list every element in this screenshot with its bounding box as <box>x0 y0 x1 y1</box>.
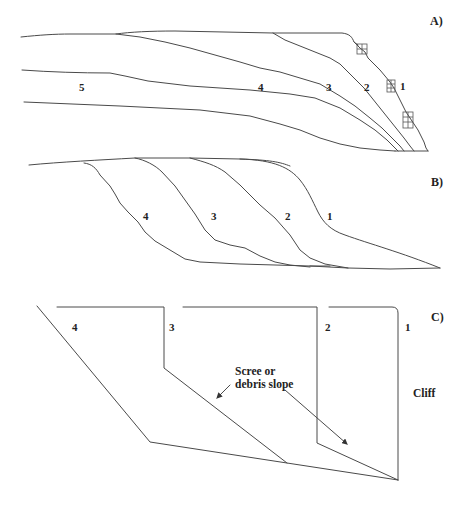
panel-a-label: A) <box>430 15 443 27</box>
panel-b-label: B) <box>431 176 443 188</box>
panel-a-cliff-block-middle <box>387 80 395 92</box>
panel-a-top-surface <box>21 31 358 45</box>
panel-a-profile-1 <box>354 42 428 151</box>
panel-b-profile-label-3: 3 <box>211 211 217 222</box>
panel-c-cliff-annotation: Cliff <box>413 387 435 400</box>
panel-c-scree-annotation: Scree or debris slope <box>235 365 293 391</box>
panel-a-profile-5 <box>24 102 395 151</box>
panel-c-label: C) <box>431 311 444 323</box>
panel-c-profile-4 <box>37 306 398 480</box>
panel-b-profiles <box>29 158 440 269</box>
panel-c-profile-label-1: 1 <box>405 322 411 333</box>
panel-c-profile-label-4: 4 <box>72 322 78 333</box>
panel-a-profile-label-3: 3 <box>326 82 332 93</box>
panel-c-profile-label-3: 3 <box>169 322 175 333</box>
panel-c-profile-label-2: 2 <box>325 322 331 333</box>
panel-a-profile-label-4: 4 <box>258 82 264 93</box>
panel-b-profile-label-4: 4 <box>143 211 149 222</box>
panel-a-profile-label-2: 2 <box>364 82 370 93</box>
panel-b-profile-label-2: 2 <box>285 211 291 222</box>
panel-c-arrow-left <box>217 385 230 398</box>
panel-b-profile-3 <box>135 158 310 267</box>
panel-c-arrow-right <box>285 390 347 444</box>
panel-c-profile-2 <box>183 307 398 480</box>
panel-b-profile-label-1: 1 <box>327 211 333 222</box>
panel-c-profiles <box>37 306 398 480</box>
panel-b-profile-4 <box>84 163 330 266</box>
slope-evolution-diagram <box>0 0 468 506</box>
panel-a-profile-label-1: 1 <box>400 81 406 92</box>
panel-a-profile-label-5: 5 <box>79 82 85 93</box>
panel-c-profile-1-cliff <box>329 307 398 480</box>
